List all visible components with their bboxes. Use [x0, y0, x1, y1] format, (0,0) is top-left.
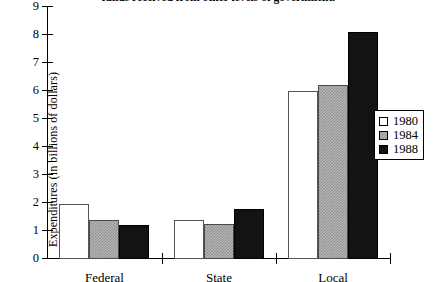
legend-label-1984: 1984 [393, 129, 418, 142]
bar-group-local [276, 7, 390, 259]
plot-area: Expenditures (in billions of dollars) 0 … [47, 7, 391, 259]
x-label-state: State [162, 270, 276, 282]
y-tick-label-6: 6 [33, 82, 39, 98]
legend-item-1980[interactable]: 1980 [379, 114, 418, 128]
y-tick-label-1: 1 [33, 222, 39, 238]
legend-swatch-1988-icon [379, 145, 388, 154]
bar-state-1980[interactable] [174, 220, 204, 259]
legend-item-1988[interactable]: 1988 [379, 142, 418, 156]
bar-federal-1988[interactable] [119, 225, 149, 259]
y-tick-label-3: 3 [33, 166, 39, 182]
legend-label-1980: 1980 [393, 115, 418, 128]
bar-federal-1984[interactable] [89, 220, 119, 259]
y-tick-label-0: 0 [33, 250, 39, 266]
bar-group-federal [47, 7, 162, 259]
y-tick-label-5: 5 [33, 110, 39, 126]
y-tick-label-4: 4 [33, 138, 39, 154]
chart-title: funds received from other levels of gove… [0, 0, 437, 4]
bar-group-state [162, 7, 276, 259]
legend-label-1988: 1988 [393, 143, 418, 156]
y-tick-label-2: 2 [33, 194, 39, 210]
x-label-federal: Federal [47, 270, 162, 282]
x-tick-separator-3 [390, 253, 391, 264]
legend-swatch-1980-icon [379, 117, 388, 126]
bar-local-1984[interactable] [318, 85, 348, 259]
bar-federal-1980[interactable] [59, 204, 89, 259]
y-tick-label-8: 8 [33, 26, 39, 42]
chart-legend: 1980 1984 1988 [374, 110, 424, 160]
bar-local-1980[interactable] [288, 91, 318, 259]
legend-item-1984[interactable]: 1984 [379, 128, 418, 142]
bar-state-1988[interactable] [234, 209, 264, 259]
bar-state-1984[interactable] [204, 224, 234, 259]
y-tick-label-9: 9 [33, 0, 39, 14]
y-tick-label-7: 7 [33, 54, 39, 70]
x-label-local: Local [276, 270, 390, 282]
legend-swatch-1984-icon [379, 131, 388, 140]
